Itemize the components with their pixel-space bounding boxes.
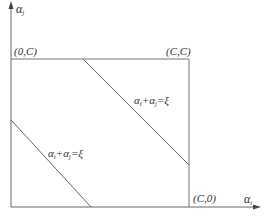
- lower-line-equation: αi+αj=ξ: [48, 148, 83, 161]
- upper-constraint-line: [83, 59, 189, 165]
- corner-label-bottom-right: (C,0): [193, 193, 216, 204]
- x-axis-arrow-icon: [253, 205, 261, 210]
- y-axis-label: αj: [16, 3, 24, 17]
- lower-constraint-line: [11, 120, 91, 207]
- y-axis-arrow-icon: [9, 1, 14, 9]
- corner-label-top-left: (0,C): [14, 46, 37, 57]
- constraint-diagram: [0, 0, 264, 220]
- upper-line-equation: αi+αj=ξ: [134, 95, 169, 108]
- corner-label-top-right: (C,C): [166, 46, 191, 57]
- x-axis-label: αi: [244, 193, 252, 207]
